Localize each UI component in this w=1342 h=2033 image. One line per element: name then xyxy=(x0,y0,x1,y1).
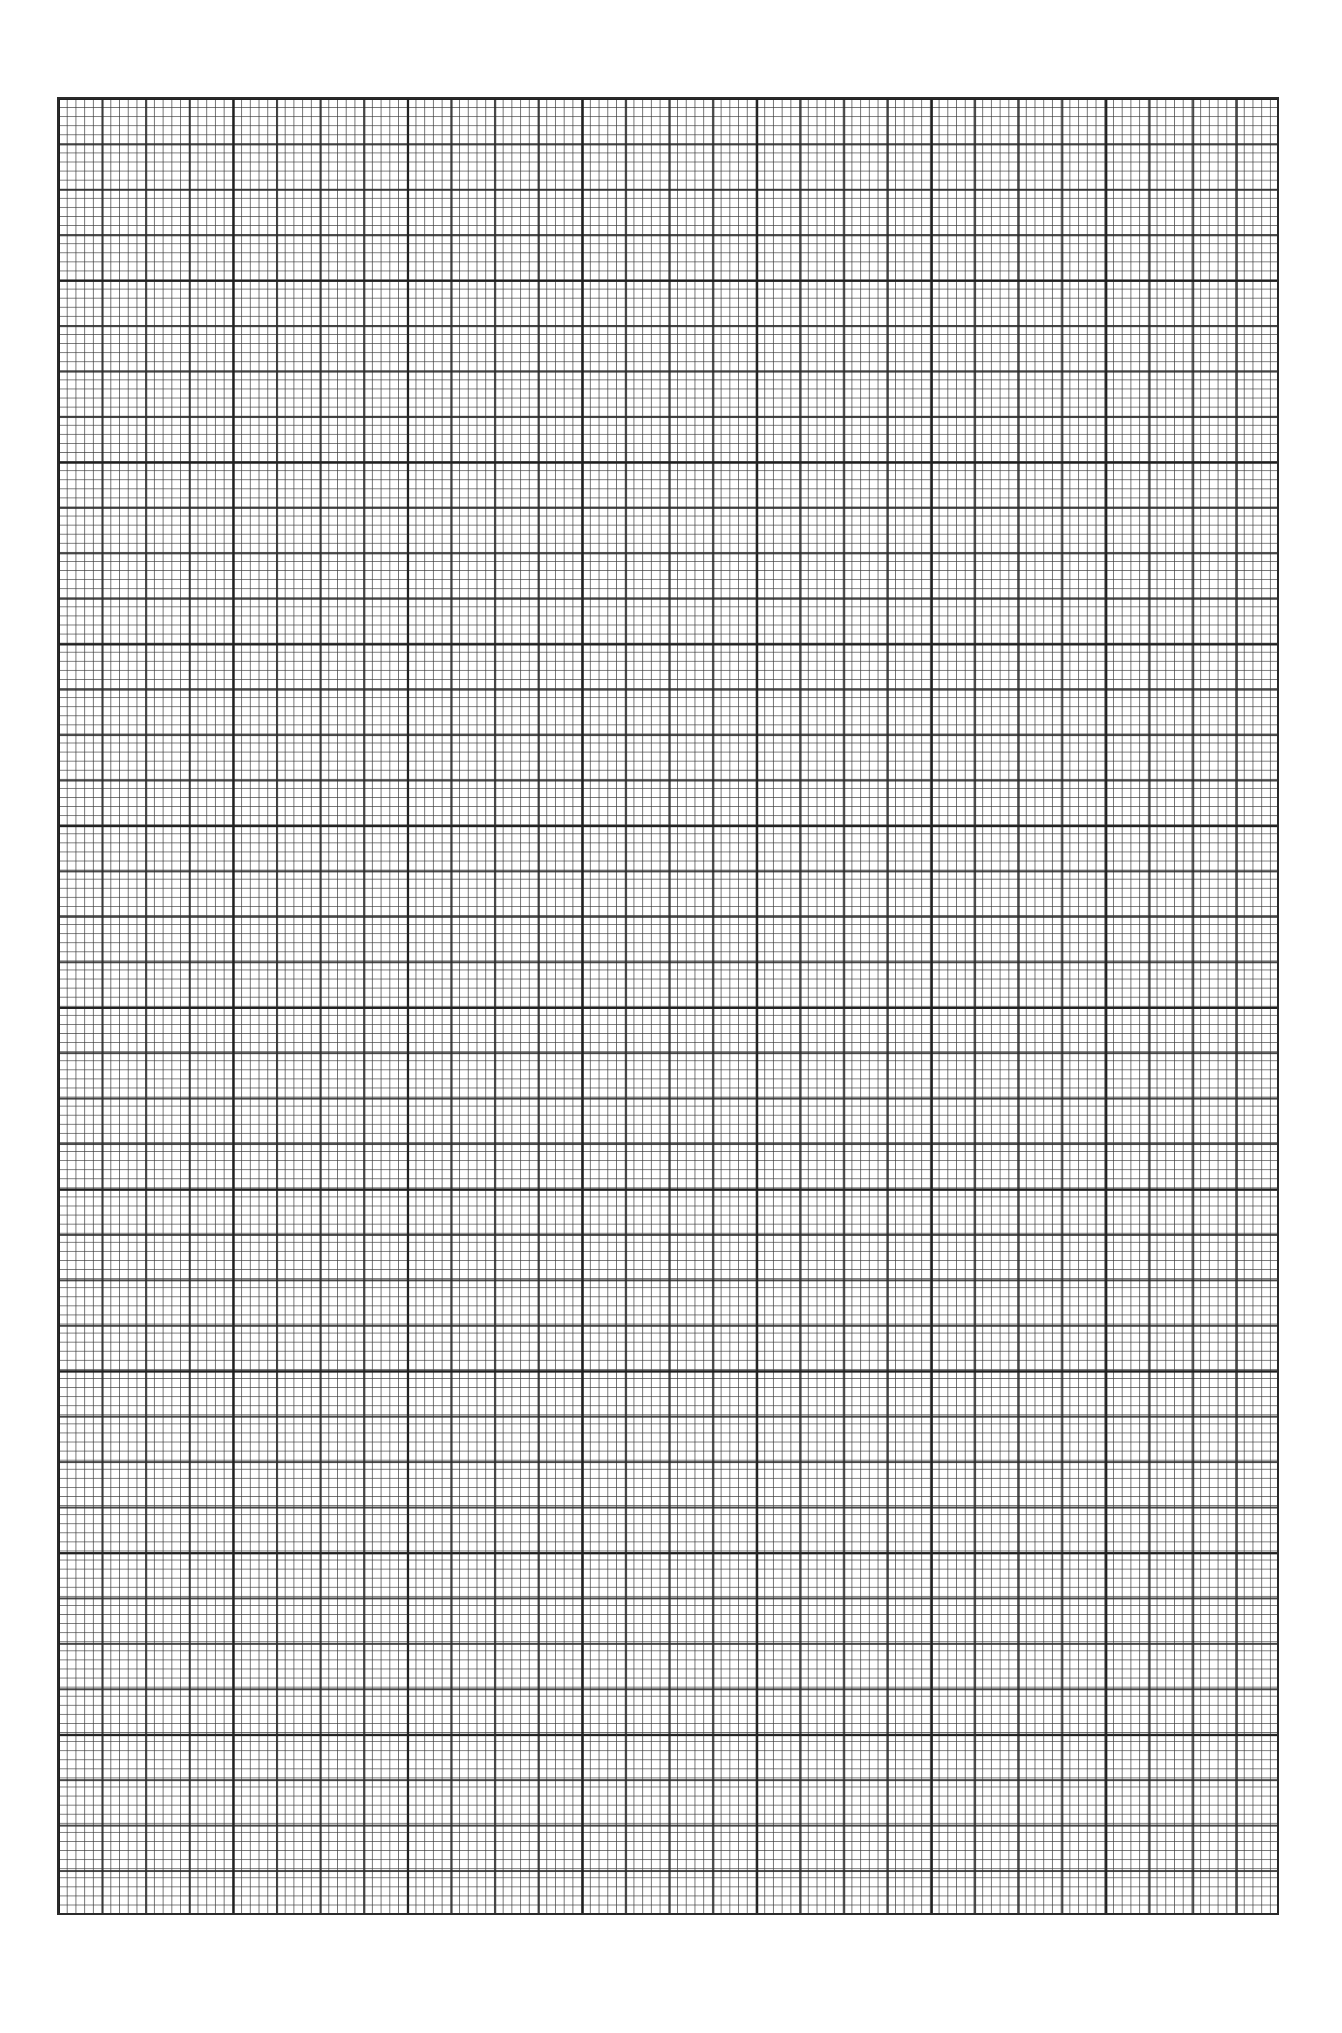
paper-sheet xyxy=(0,0,1342,2033)
graph-grid xyxy=(57,97,1279,1915)
